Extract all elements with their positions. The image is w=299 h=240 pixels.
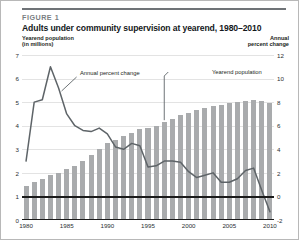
annotation-yearend-population: Yearend population (212, 69, 262, 75)
left-axis-tick-label: 1 (7, 193, 19, 200)
x-axis-tick-label: 2010 (255, 222, 285, 229)
leader-line (164, 72, 168, 120)
annotation-annual-percent-change: Annual percent change (80, 70, 140, 76)
right-axis-title-line2: percent change (248, 42, 289, 48)
left-axis-title: Yearend population (in millions) (22, 36, 74, 47)
x-axis-tick-label: 1985 (52, 222, 82, 229)
right-axis-tick-label: 4 (277, 146, 291, 153)
left-axis-tick-label: 7 (7, 52, 19, 59)
right-axis-tick-label: 8 (277, 99, 291, 106)
title-rule (22, 8, 286, 10)
x-axis-tick-label: 1980 (11, 222, 41, 229)
right-axis-tick-label: 12 (277, 52, 291, 59)
x-axis-baseline (22, 219, 274, 220)
right-axis-tick-label: 10 (277, 75, 291, 82)
plot-area: 01234567 -2024681012 1980198519901995200… (22, 55, 274, 220)
figure-title: Adults under community supervision at ye… (22, 23, 290, 33)
left-axis-tick-label: 4 (7, 122, 19, 129)
left-axis-tick-label: 2 (7, 170, 19, 177)
x-axis-tick-label: 1990 (92, 222, 122, 229)
right-axis-tick-label: 2 (277, 170, 291, 177)
x-axis-tick-label: 1995 (133, 222, 163, 229)
figure-container: FIGURE 1 Adults under community supervis… (0, 0, 299, 240)
right-axis-tick-label: 6 (277, 122, 291, 129)
leader-line (62, 77, 77, 91)
left-axis-title-line2: (in millions) (22, 42, 74, 48)
x-axis-tick-label: 2005 (214, 222, 244, 229)
x-axis-tick-label: 2000 (174, 222, 204, 229)
annotation-leader-lines (22, 55, 274, 220)
figure-number: FIGURE 1 (22, 13, 59, 22)
left-axis-tick-label: 6 (7, 75, 19, 82)
right-axis-title: Annual percent change (248, 36, 289, 47)
left-axis-tick-label: 5 (7, 99, 19, 106)
right-axis-tick-label: 0 (277, 193, 291, 200)
left-axis-tick-label: 3 (7, 146, 19, 153)
